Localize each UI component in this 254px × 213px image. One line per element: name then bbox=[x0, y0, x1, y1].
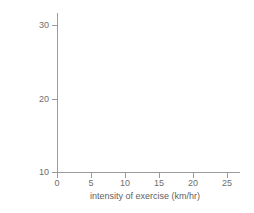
y-axis-tick-20 bbox=[52, 99, 57, 100]
x-axis-ticklabel-25: 25 bbox=[214, 178, 240, 188]
x-axis-ticklabel-0: 0 bbox=[44, 178, 70, 188]
x-axis-ticklabel-20: 20 bbox=[180, 178, 206, 188]
x-axis-ticklabel-10: 10 bbox=[112, 178, 138, 188]
plot-area bbox=[57, 13, 240, 172]
chart-figure: 30 20 10 0 5 10 15 20 25 intensity of ex… bbox=[0, 0, 254, 213]
y-axis-ticklabel-20: 20 bbox=[27, 94, 49, 104]
y-axis-tick-30 bbox=[52, 25, 57, 26]
x-axis-ticklabel-5: 5 bbox=[78, 178, 104, 188]
x-axis-ticklabel-15: 15 bbox=[146, 178, 172, 188]
x-axis-title: intensity of exercise (km/hr) bbox=[0, 191, 254, 201]
x-axis-line bbox=[57, 172, 240, 173]
y-axis-ticklabel-10: 10 bbox=[27, 167, 49, 177]
y-axis-ticklabel-30: 30 bbox=[27, 20, 49, 30]
y-axis-line bbox=[57, 13, 58, 173]
